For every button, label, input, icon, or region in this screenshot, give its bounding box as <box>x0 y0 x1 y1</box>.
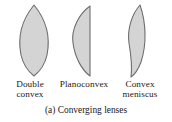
label-double-convex: Double convex <box>2 79 58 100</box>
label-convex-meniscus-line1: Convex <box>111 79 169 89</box>
lens-planoconvex <box>58 0 110 80</box>
lens-diagram-row <box>0 0 172 80</box>
double-convex-lens-icon <box>8 0 60 80</box>
planoconvex-lens-icon <box>58 0 110 80</box>
label-double-convex-line1: Double <box>2 79 58 89</box>
label-convex-meniscus-line2: meniscus <box>111 89 169 99</box>
convex-meniscus-lens-icon <box>110 0 166 80</box>
label-planoconvex: Planoconvex <box>55 79 113 89</box>
figure-caption: (a) Converging lenses <box>0 105 172 116</box>
lens-convex-meniscus <box>110 0 166 80</box>
label-planoconvex-line1: Planoconvex <box>55 79 113 89</box>
label-double-convex-line2: convex <box>2 89 58 99</box>
converging-lenses-figure: Double convex Planoconvex Convex meniscu… <box>0 0 172 122</box>
label-convex-meniscus: Convex meniscus <box>111 79 169 100</box>
lens-double-convex <box>8 0 60 80</box>
